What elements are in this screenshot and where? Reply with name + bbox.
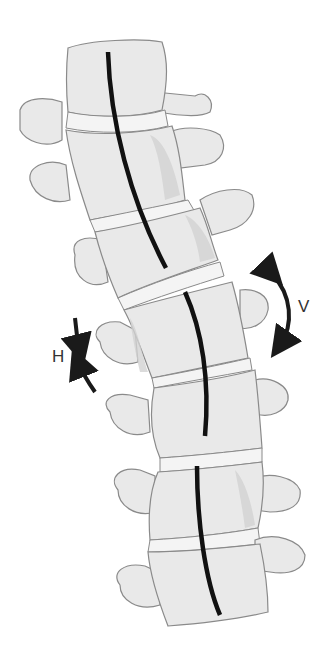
vertical-rotation-label: V [298,297,310,316]
spine-diagram: V H [0,0,335,653]
horizontal-rotation-arrow-down-icon [75,318,80,350]
vertebra-5 [106,370,288,458]
vertebra-6 [114,462,300,540]
horizontal-rotation-arrow-up-icon [78,362,95,392]
vertical-rotation-arrow-icon [272,274,289,345]
horizontal-rotation-label: H [52,347,64,366]
